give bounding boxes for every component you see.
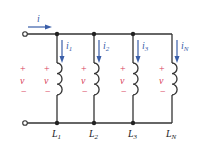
- inductor-label-1: L1: [51, 128, 61, 141]
- branch-current-2: i2: [103, 40, 110, 53]
- parallel-inductor-diagram: i i1 i2 i3 iN + v − + v − + v − + v − + …: [0, 0, 205, 149]
- circuit-svg: i i1 i2 i3 iN + v − + v − + v − + v − + …: [0, 0, 205, 149]
- svg-text:+: +: [44, 63, 50, 74]
- inductor-coil-n: [172, 63, 177, 95]
- source-current-label: i: [37, 13, 40, 24]
- inductor-label-n: LN: [165, 128, 177, 141]
- svg-text:v: v: [20, 75, 25, 86]
- inductor-coil-2: [94, 63, 99, 95]
- inductor-label-2: L2: [88, 128, 99, 141]
- inductor-label-3: L3: [127, 128, 138, 141]
- top-terminal: [23, 32, 28, 37]
- svg-text:v: v: [81, 75, 86, 86]
- svg-text:v: v: [159, 75, 164, 86]
- branch-current-3: i3: [142, 40, 149, 53]
- svg-text:+: +: [159, 63, 165, 74]
- inductor-coil-1: [57, 63, 62, 95]
- svg-text:−: −: [45, 86, 51, 97]
- branch-current-n: iN: [181, 40, 189, 53]
- svg-text:+: +: [81, 63, 87, 74]
- svg-text:−: −: [121, 86, 127, 97]
- branch-current-1: i1: [66, 40, 72, 53]
- svg-text:+: +: [120, 63, 126, 74]
- svg-text:v: v: [120, 75, 125, 86]
- svg-text:+: +: [20, 63, 26, 74]
- svg-text:−: −: [160, 86, 166, 97]
- inductor-coil-3: [133, 63, 138, 95]
- svg-text:−: −: [21, 86, 27, 97]
- polarity-marks: + v − + v − + v − + v − + v −: [20, 63, 166, 97]
- svg-text:−: −: [82, 86, 88, 97]
- svg-text:v: v: [44, 75, 49, 86]
- bottom-terminal: [23, 121, 28, 126]
